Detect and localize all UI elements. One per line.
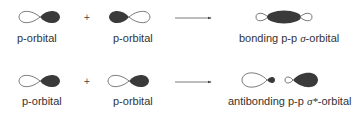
p-orbital-shape xyxy=(109,11,150,23)
reactant-label: p-orbital xyxy=(17,32,57,44)
reactant-label: p-orbital xyxy=(22,95,62,107)
orbital-lobe-filled xyxy=(109,11,129,23)
p-orbital-shape xyxy=(19,75,60,87)
row-bonding: p-orbital + p-orbital bonding p-p σ-orbi… xyxy=(17,11,339,45)
orbital-lobe-open xyxy=(242,73,267,87)
orbital-lobe-filled xyxy=(267,77,275,83)
reactant-label: p-orbital xyxy=(113,95,153,107)
orbital-lobe-filled xyxy=(267,11,301,24)
orbital-lobe-open xyxy=(108,75,129,86)
product-label-suffix: -orbital xyxy=(318,95,352,107)
bonding-sigma-orbital-shape xyxy=(256,11,312,24)
p-orbital-shape xyxy=(19,11,60,23)
product-label-suffix: -orbital xyxy=(306,32,340,44)
reactant-label: p-orbital xyxy=(113,32,153,44)
row-antibonding: p-orbital + p-orbital antibonding p-p σ*… xyxy=(19,73,351,107)
orbital-lobe-filled xyxy=(40,75,60,87)
product-label-prefix: antibonding p-p xyxy=(228,95,307,107)
product-label-prefix: bonding p-p xyxy=(239,32,300,44)
product-label: antibonding p-p σ*-orbital xyxy=(228,95,351,107)
orbital-lobe-filled xyxy=(129,75,149,87)
plus-operator: + xyxy=(84,12,90,23)
product-label: bonding p-p σ-orbital xyxy=(239,32,339,44)
orbital-lobe-open xyxy=(19,11,40,22)
orbital-lobe-open xyxy=(300,13,312,21)
orbital-diagram: p-orbital + p-orbital bonding p-p σ-orbi… xyxy=(0,0,360,115)
orbital-lobe-open xyxy=(129,11,150,22)
orbital-lobe-filled xyxy=(293,73,318,87)
antibonding-sigma-star-orbital-shape xyxy=(242,73,318,87)
sigma-star-symbol: σ* xyxy=(307,95,318,107)
orbital-lobe-open xyxy=(19,75,40,86)
orbital-lobe-open xyxy=(256,13,268,21)
orbital-lobe-open xyxy=(285,77,293,83)
p-orbital-shape xyxy=(108,75,149,87)
plus-operator: + xyxy=(84,76,90,87)
orbital-lobe-filled xyxy=(40,11,60,23)
